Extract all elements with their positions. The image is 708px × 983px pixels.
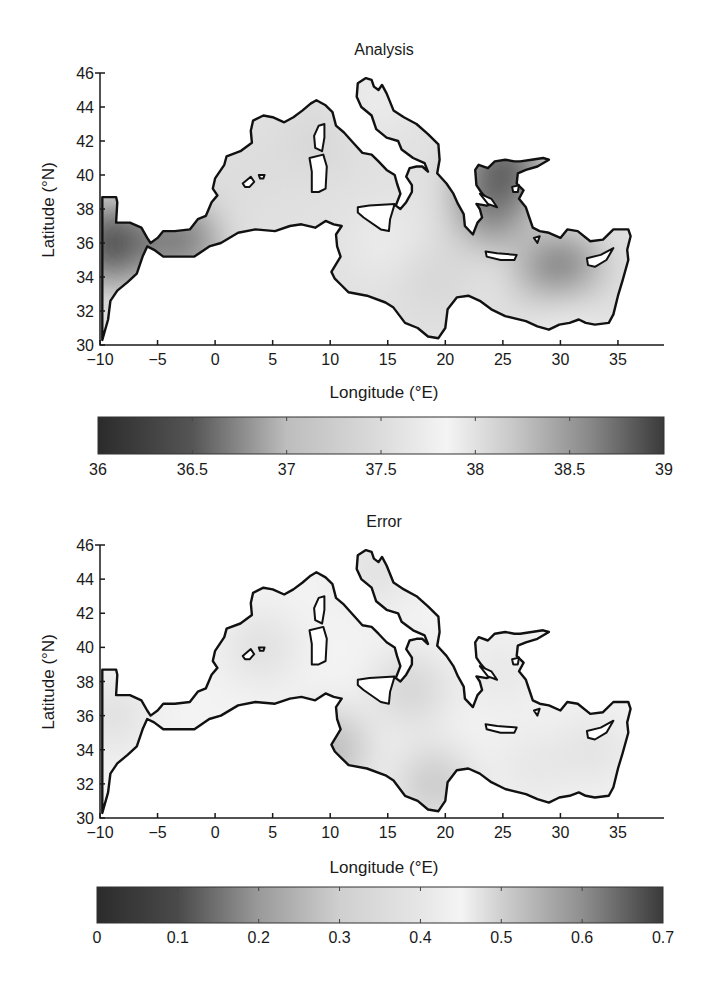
error-title: Error [366, 513, 402, 530]
figure: Analysis −10−505101520253035303234363840… [0, 0, 708, 983]
x-tick-label: 15 [379, 351, 397, 368]
y-tick-label: 32 [76, 776, 94, 793]
error-panel: Error −10−505101520253035303234363840424… [39, 513, 674, 946]
y-tick-label: 46 [76, 537, 94, 554]
field-sample-7 [561, 716, 629, 784]
colorbar-tick-label: 39 [655, 461, 673, 478]
colorbar-gradient [98, 417, 664, 454]
colorbar-tick-label: 36.5 [177, 461, 208, 478]
x-tick-label: 15 [379, 824, 397, 841]
sardinia-island [310, 627, 327, 665]
field-sample-2 [216, 141, 284, 209]
x-tick-label: 20 [436, 351, 454, 368]
y-tick-label: 44 [76, 571, 94, 588]
x-tick-label: 10 [321, 351, 339, 368]
colorbar-tick-label: 0.3 [328, 929, 350, 946]
x-tick-label: 25 [494, 824, 512, 841]
colorbar-tick-label: 38 [466, 461, 484, 478]
analysis-colorbar: 3636.53737.53838.539 [89, 417, 673, 478]
y-tick-label: 38 [76, 201, 94, 218]
x-tick-label: 5 [268, 351, 277, 368]
error-map [78, 537, 664, 818]
y-tick-label: 40 [76, 167, 94, 184]
menorca-island [259, 175, 265, 178]
analysis-x-axis-label: Longitude (°E) [330, 383, 439, 402]
field-sample-2 [296, 716, 364, 784]
colorbar-tick-label: 0 [93, 929, 102, 946]
field-sample-5 [400, 243, 468, 311]
error-y-axis-label: Latitude (°N) [39, 634, 58, 730]
x-tick-label: 30 [552, 824, 570, 841]
y-tick-label: 34 [76, 742, 94, 759]
x-tick-label: 10 [321, 824, 339, 841]
y-tick-label: 32 [76, 303, 94, 320]
x-tick-label: 25 [494, 351, 512, 368]
analysis-title: Analysis [354, 41, 414, 58]
lesbos-island [512, 185, 519, 192]
x-tick-label: 20 [436, 824, 454, 841]
analysis-panel: Analysis −10−505101520253035303234363840… [39, 41, 673, 478]
y-tick-label: 38 [76, 674, 94, 691]
y-tick-label: 36 [76, 708, 94, 725]
colorbar-tick-label: 38.5 [554, 461, 585, 478]
y-tick-label: 44 [76, 99, 94, 116]
y-tick-label: 46 [76, 65, 94, 82]
colorbar-tick-label: 0.1 [167, 929, 189, 946]
y-tick-label: 30 [76, 810, 94, 827]
y-tick-label: 42 [76, 605, 94, 622]
menorca-island [259, 647, 265, 650]
analysis-y-axis-label: Latitude (°N) [39, 162, 58, 258]
field-sample-10 [342, 65, 410, 133]
sardinia-island [310, 155, 327, 192]
analysis-map [78, 65, 664, 357]
colorbar-tick-label: 0.2 [248, 929, 270, 946]
x-tick-label: 5 [268, 824, 277, 841]
field-sample-5 [469, 639, 537, 707]
x-tick-label: 0 [211, 351, 220, 368]
colorbar-tick-label: 0.5 [490, 929, 512, 946]
y-tick-label: 34 [76, 269, 94, 286]
x-tick-label: 35 [609, 351, 627, 368]
colorbar-tick-label: 37.5 [365, 461, 396, 478]
colorbar-tick-label: 37 [278, 461, 296, 478]
y-tick-label: 40 [76, 639, 94, 656]
x-tick-label: −5 [148, 824, 166, 841]
field-sample-8 [342, 537, 410, 605]
x-tick-label: 0 [211, 824, 220, 841]
field-sample-4 [400, 750, 468, 818]
colorbar-tick-label: 0.7 [652, 929, 674, 946]
lesbos-island [512, 658, 519, 665]
x-tick-label: 35 [609, 824, 627, 841]
colorbar-gradient [97, 887, 663, 923]
colorbar-tick-label: 0.4 [409, 929, 431, 946]
x-tick-label: −5 [148, 351, 166, 368]
y-tick-label: 42 [76, 133, 94, 150]
y-tick-label: 36 [76, 235, 94, 252]
y-tick-label: 30 [76, 337, 94, 354]
x-tick-label: 30 [552, 351, 570, 368]
error-colorbar: 00.10.20.30.40.50.60.7 [93, 887, 675, 946]
error-x-axis-label: Longitude (°E) [330, 858, 439, 877]
colorbar-tick-label: 36 [89, 461, 107, 478]
colorbar-tick-label: 0.6 [571, 929, 593, 946]
